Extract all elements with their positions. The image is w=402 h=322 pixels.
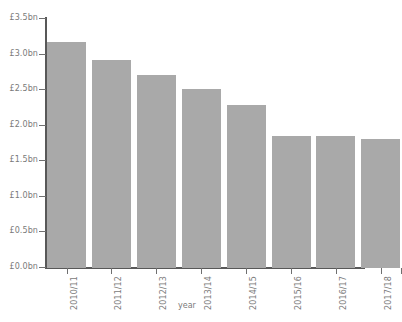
x-axis-tick [111, 268, 112, 274]
x-axis-tick [156, 268, 157, 274]
bar[interactable] [361, 139, 400, 268]
x-axis-tick [336, 268, 337, 274]
bar[interactable] [272, 136, 311, 268]
bar[interactable] [227, 105, 266, 268]
x-axis-tick [67, 268, 68, 274]
x-axis-label: 2017/18 [385, 276, 393, 310]
x-axis-tick [291, 268, 292, 274]
bar[interactable] [137, 75, 176, 268]
x-axis-tick [246, 268, 247, 274]
x-axis-title: year [0, 301, 374, 311]
x-axis-tick [201, 268, 202, 274]
bar[interactable] [316, 136, 355, 268]
x-axis-tick [381, 268, 382, 274]
bar[interactable] [47, 42, 86, 268]
bar[interactable] [92, 60, 131, 268]
bar[interactable] [182, 89, 221, 268]
